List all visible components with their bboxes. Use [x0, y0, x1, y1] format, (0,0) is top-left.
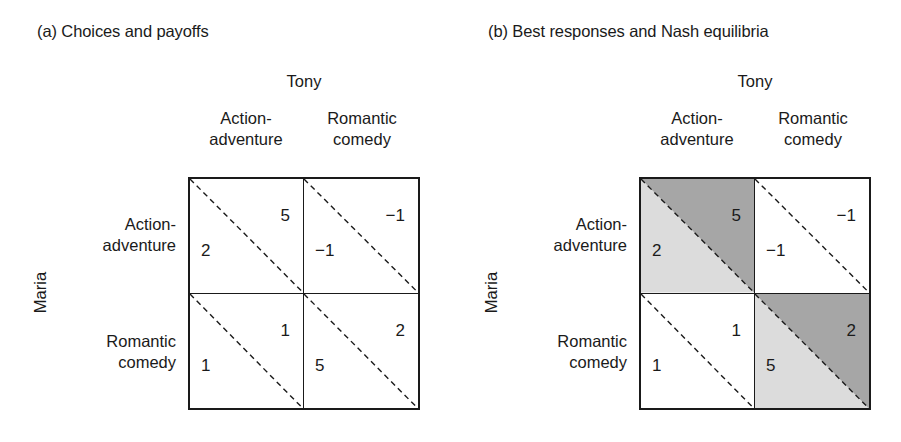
panel-a-row-headers: Action- adventure Romantic comedy — [58, 177, 182, 410]
col-header-line1: Romantic — [778, 109, 848, 127]
panel-a-row-player-label: Maria — [31, 233, 50, 353]
row-header-line1: Action- — [125, 215, 176, 233]
panel-b-column-player-label: Tony — [639, 72, 871, 91]
cell-shading-and-diagonal — [755, 294, 869, 409]
panel-b-title: (b) Best responses and Nash equilibria — [488, 22, 769, 41]
panel-a-cell-rc-rc: 5 2 — [304, 294, 418, 409]
panel-b-column-header-romantic-comedy: Romantic comedy — [755, 108, 871, 150]
panel-b-cell-rc-aa: 1 1 — [641, 294, 755, 409]
cell-diagonal-divider — [190, 179, 303, 293]
col-header-line1: Action- — [671, 109, 722, 127]
panel-a-col-payoff: −1 — [386, 207, 405, 224]
col-header-line2: comedy — [784, 130, 842, 148]
row-header-line1: Romantic — [106, 332, 176, 350]
panel-a-row-header-romantic-comedy: Romantic comedy — [58, 294, 182, 411]
panel-a-row-payoff: −1 — [315, 242, 334, 259]
panel-a-col-payoff: 1 — [281, 322, 290, 339]
panel-b-row-player-label: Maria — [482, 233, 501, 353]
panel-b-col-payoff: 1 — [732, 322, 741, 339]
panel-b-row-payoff: −1 — [766, 242, 785, 259]
panel-a-column-header-action-adventure: Action- adventure — [188, 108, 304, 150]
cell-diagonal-divider — [304, 294, 418, 409]
cell-diagonal-divider — [190, 294, 303, 409]
col-header-line2: adventure — [660, 130, 733, 148]
panel-a-title: (a) Choices and payoffs — [37, 22, 209, 41]
panel-a-row-header-action-adventure: Action- adventure — [58, 177, 182, 294]
panel-a-column-player-label: Tony — [188, 72, 420, 91]
panel-a-cell-rc-aa: 1 1 — [190, 294, 304, 409]
row-header-line2: adventure — [554, 236, 627, 254]
panel-a-row-payoff: 5 — [315, 357, 324, 374]
panel-b-payoff-matrix: 2 5 −1 −1 1 1 — [639, 177, 871, 410]
cell-diagonal-divider — [304, 179, 418, 293]
panel-b-row-payoff: 5 — [766, 357, 775, 374]
panel-a-row-payoff: 1 — [201, 357, 210, 374]
row-header-line1: Action- — [576, 215, 627, 233]
panel-b-cell-aa-rc: −1 −1 — [755, 179, 869, 294]
col-header-line2: comedy — [333, 130, 391, 148]
panel-b-column-headers: Action- adventure Romantic comedy — [639, 108, 871, 150]
panel-a-col-payoff: 5 — [281, 207, 290, 224]
panel-a-cell-aa-aa: 2 5 — [190, 179, 304, 294]
panel-b-row-payoff: 1 — [652, 357, 661, 374]
panel-b-row-headers: Action- adventure Romantic comedy — [509, 177, 633, 410]
panel-a-col-payoff: 2 — [396, 322, 405, 339]
panel-a-column-header-romantic-comedy: Romantic comedy — [304, 108, 420, 150]
panel-b-row-payoff: 2 — [652, 242, 661, 259]
panel-a-cell-aa-rc: −1 −1 — [304, 179, 418, 294]
panel-b-col-payoff: 5 — [732, 207, 741, 224]
cell-shading-and-diagonal — [641, 179, 754, 293]
panel-b: (b) Best responses and Nash equilibria T… — [451, 0, 901, 442]
panel-b-col-payoff: −1 — [837, 207, 856, 224]
panel-b-cell-rc-rc: 5 2 — [755, 294, 869, 409]
panel-b-column-header-action-adventure: Action- adventure — [639, 108, 755, 150]
row-header-line2: comedy — [569, 353, 627, 371]
panel-b-row-header-action-adventure: Action- adventure — [509, 177, 633, 294]
panel-a-payoff-matrix: 2 5 −1 −1 1 1 — [188, 177, 420, 410]
panel-a-row-payoff: 2 — [201, 242, 210, 259]
panel-b-cell-aa-aa: 2 5 — [641, 179, 755, 294]
col-header-line1: Action- — [220, 109, 271, 127]
panel-a: (a) Choices and payoffs Tony Action- adv… — [0, 0, 450, 442]
cell-diagonal-divider — [755, 179, 869, 293]
col-header-line1: Romantic — [327, 109, 397, 127]
panel-b-col-payoff: 2 — [847, 322, 856, 339]
row-header-line2: comedy — [118, 353, 176, 371]
col-header-line2: adventure — [209, 130, 282, 148]
cell-diagonal-divider — [641, 294, 754, 409]
panel-a-column-headers: Action- adventure Romantic comedy — [188, 108, 420, 150]
row-header-line2: adventure — [103, 236, 176, 254]
panel-b-row-header-romantic-comedy: Romantic comedy — [509, 294, 633, 411]
row-header-line1: Romantic — [557, 332, 627, 350]
